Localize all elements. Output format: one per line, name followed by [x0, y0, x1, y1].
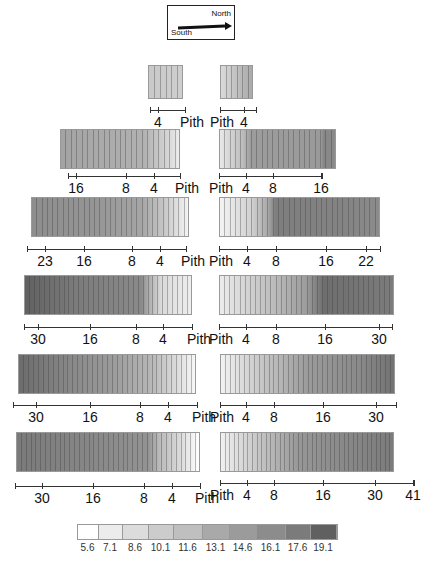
ring-count-label: 16 — [315, 488, 331, 502]
pith-label: Pith — [187, 332, 211, 346]
growth-ring-line — [25, 276, 188, 314]
south-ring-axis — [24, 327, 192, 328]
legend-value: 8.6 — [128, 542, 142, 553]
north-ring-axis — [219, 249, 380, 250]
axis-tick — [366, 246, 367, 252]
south-profile-strip — [24, 275, 192, 315]
south-ring-axis — [27, 249, 186, 250]
axis-tick — [396, 402, 397, 408]
axis-tick — [27, 246, 28, 252]
pith-label: Pith — [175, 181, 199, 195]
ring-count-label: 4 — [242, 332, 250, 346]
axis-tick — [136, 324, 137, 330]
south-profile-strip — [148, 65, 183, 99]
ring-count-label: 8 — [270, 488, 278, 502]
axis-tick — [140, 402, 141, 408]
ring-count-label: 23 — [37, 254, 53, 268]
axis-tick — [375, 480, 376, 486]
north-profile-strip — [219, 129, 336, 169]
north-profile-strip — [219, 197, 380, 237]
ring-count-label: 16 — [318, 254, 334, 268]
north-profile-strip — [220, 65, 253, 99]
south-ring-axis — [150, 110, 185, 111]
axis-tick — [186, 246, 187, 252]
ring-count-label: 8 — [269, 181, 277, 195]
ring-count-label: 16 — [317, 332, 333, 346]
axis-tick — [256, 107, 257, 113]
axis-tick — [379, 324, 380, 330]
ring-count-label: 30 — [34, 491, 50, 505]
axis-tick — [172, 483, 173, 489]
axis-tick — [376, 402, 377, 408]
axis-tick — [13, 402, 14, 408]
legend-swatch — [286, 525, 311, 539]
ring-count-label: 8 — [270, 410, 278, 424]
growth-ring-line — [221, 355, 391, 393]
axis-tick — [392, 324, 393, 330]
ring-count-label: 8 — [272, 332, 280, 346]
north-profile-strip — [220, 432, 394, 472]
ring-count-label: 8 — [122, 181, 130, 195]
legend-swatch — [174, 525, 203, 539]
north-label: North — [211, 9, 231, 18]
ring-count-label: 41 — [405, 488, 421, 502]
axis-tick — [247, 246, 248, 252]
axis-tick — [220, 107, 221, 113]
ring-count-label: 30 — [30, 332, 46, 346]
ring-count-label: 8 — [140, 491, 148, 505]
axis-tick — [413, 480, 414, 486]
ring-count-label: 4 — [243, 488, 251, 502]
axis-tick — [219, 173, 220, 179]
ring-count-label: 4 — [154, 115, 162, 129]
north-ring-axis — [220, 483, 414, 484]
south-ring-axis — [13, 405, 197, 406]
growth-ring-line — [61, 130, 176, 168]
north-ring-axis — [219, 176, 322, 177]
legend-swatch — [99, 525, 123, 539]
ring-count-label: 16 — [313, 181, 329, 195]
axis-tick — [192, 324, 193, 330]
ring-count-label: 4 — [150, 181, 158, 195]
axis-tick — [38, 324, 39, 330]
axis-tick — [132, 246, 133, 252]
axis-tick — [180, 173, 181, 179]
ring-count-label: 8 — [136, 410, 144, 424]
axis-tick — [90, 324, 91, 330]
growth-ring-line — [220, 130, 332, 168]
ring-count-label: 16 — [68, 181, 84, 195]
ring-count-label: 30 — [367, 488, 383, 502]
axis-tick — [76, 173, 77, 179]
growth-ring-line — [220, 198, 376, 236]
pith-label: Pith — [180, 115, 204, 129]
ring-count-label: 30 — [371, 332, 387, 346]
growth-ring-line — [149, 66, 178, 98]
south-profile-strip — [18, 354, 196, 394]
legend-value: 10.1 — [151, 542, 170, 553]
legend-swatch — [230, 525, 257, 539]
legend-swatch — [78, 525, 99, 539]
axis-tick — [163, 324, 164, 330]
ring-count-label: 8 — [272, 254, 280, 268]
ring-count-label: 8 — [128, 254, 136, 268]
pith-label: Pith — [209, 254, 233, 268]
axis-tick — [144, 483, 145, 489]
growth-ring-line — [32, 198, 185, 236]
ring-count-label: 4 — [242, 181, 250, 195]
north-profile-strip — [219, 275, 394, 315]
legend-value: 16.1 — [261, 542, 280, 553]
ring-count-label: 16 — [315, 410, 331, 424]
axis-tick — [274, 402, 275, 408]
ring-count-label: 30 — [368, 410, 384, 424]
axis-tick — [276, 246, 277, 252]
legend-swatch — [149, 525, 174, 539]
north-ring-axis — [220, 110, 256, 111]
north-ring-axis — [220, 405, 396, 406]
growth-ring-line — [221, 66, 249, 98]
axis-tick — [36, 402, 37, 408]
axis-tick — [323, 402, 324, 408]
ring-count-label: 16 — [82, 410, 98, 424]
axis-tick — [244, 107, 245, 113]
axis-tick — [219, 324, 220, 330]
axis-tick — [321, 173, 322, 179]
axis-tick — [15, 483, 16, 489]
